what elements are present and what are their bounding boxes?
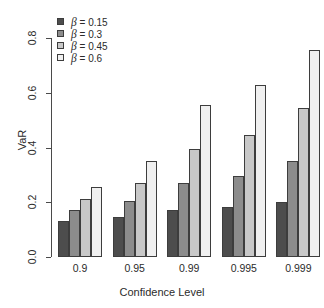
beta-symbol: β <box>71 16 77 28</box>
bar <box>167 210 178 257</box>
bar <box>255 85 266 257</box>
y-axis-tick <box>46 148 51 149</box>
bar <box>189 149 200 257</box>
legend-swatch-icon <box>57 18 64 25</box>
x-axis-title: Confidence Level <box>0 286 324 298</box>
bar <box>69 210 80 257</box>
bar <box>58 221 69 257</box>
x-axis-group-label: 0.995 <box>219 262 269 274</box>
y-axis-tick-text: 0.2 <box>26 188 38 216</box>
legend-swatch-icon <box>57 30 64 37</box>
bar <box>80 199 91 257</box>
legend-value: = 0.15 <box>80 17 108 28</box>
bar <box>91 187 102 257</box>
y-axis-tick <box>46 202 51 203</box>
legend-item: β = 0.15 <box>57 16 108 28</box>
y-axis-tick-text: 0.8 <box>26 24 38 52</box>
bar <box>298 108 309 257</box>
y-axis-tick-label: 0.6 <box>18 87 46 99</box>
bar <box>276 202 287 257</box>
bar <box>233 176 244 257</box>
y-axis-tick-label: 0.0 <box>18 251 46 263</box>
x-axis-group-label: 0.95 <box>110 262 160 274</box>
y-axis-tick-label: 0.8 <box>18 32 46 44</box>
y-axis-tick-text: 0.6 <box>26 79 38 107</box>
bar <box>178 183 189 257</box>
bar <box>287 161 298 257</box>
bar <box>146 161 157 257</box>
bar <box>244 135 255 257</box>
bar <box>113 217 124 257</box>
y-axis-tick-text: 0.0 <box>26 243 38 271</box>
legend-label: β = 0.15 <box>71 16 108 28</box>
bar <box>135 183 146 257</box>
y-axis-tick <box>46 257 51 258</box>
bar <box>124 201 135 257</box>
var-bar-chart: β = 0.15 β = 0.3 β = 0.45 β = 0.6 0.00.2… <box>0 0 324 308</box>
bar <box>309 50 320 257</box>
plot-area <box>52 38 320 257</box>
x-axis-group-label: 0.999 <box>273 262 323 274</box>
bar <box>200 105 211 257</box>
y-axis-title: VaR <box>16 110 28 170</box>
x-axis-group-label: 0.99 <box>164 262 214 274</box>
x-axis-group-label: 0.9 <box>55 262 105 274</box>
y-axis-tick-label: 0.2 <box>18 196 46 208</box>
bar <box>222 207 233 257</box>
y-axis-tick <box>46 93 51 94</box>
y-axis-tick <box>46 38 51 39</box>
